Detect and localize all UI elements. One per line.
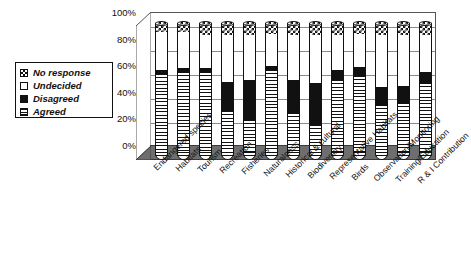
x-axis-label: Birds xyxy=(349,162,370,183)
